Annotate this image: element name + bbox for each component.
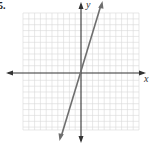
y-axis-label: y (86, 0, 90, 10)
line-down-arrow-icon (59, 133, 64, 141)
y-axis-down-arrow-icon (79, 136, 84, 143)
line-up-arrow-icon (98, 1, 103, 9)
x-axis-label: x (144, 73, 148, 84)
y-axis-up-arrow-icon (79, 2, 84, 9)
x-axis-left-arrow-icon (6, 71, 13, 76)
x-axis (6, 71, 146, 76)
coordinate-plane (0, 0, 151, 145)
